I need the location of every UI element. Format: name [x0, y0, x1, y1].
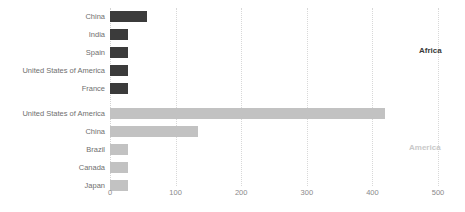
gridline-500 — [438, 8, 439, 186]
bar-africa-china[interactable] — [110, 11, 147, 22]
bar-africa-france[interactable] — [110, 83, 128, 94]
bar-america-usa[interactable] — [110, 108, 385, 119]
axis-tick-label: 400 — [366, 188, 379, 197]
category-label: China — [85, 8, 105, 26]
bar-america-brazil[interactable] — [110, 144, 128, 155]
facet-label-america: America — [409, 143, 441, 152]
bar-america-china[interactable] — [110, 126, 198, 137]
category-label: India — [89, 26, 105, 44]
bar-africa-usa[interactable] — [110, 65, 128, 76]
category-label: Brazil — [86, 141, 105, 159]
category-label: China — [85, 123, 105, 141]
facet-label-africa: Africa — [419, 46, 442, 55]
bar-america-japan[interactable] — [110, 180, 128, 191]
gridline-400 — [372, 8, 373, 186]
bar-america-canada[interactable] — [110, 162, 128, 173]
category-label: France — [82, 80, 105, 98]
category-label: United States of America — [22, 62, 105, 80]
axis-tick-label: 200 — [235, 188, 248, 197]
bar-africa-spain[interactable] — [110, 47, 128, 58]
category-label: United States of America — [22, 105, 105, 123]
plot-area: China India Spain United States of Ameri… — [110, 0, 438, 212]
axis-tick-label: 300 — [301, 188, 314, 197]
axis-tick-label: 500 — [432, 188, 445, 197]
axis-tick-label: 0 — [108, 188, 112, 197]
category-label: Spain — [86, 44, 105, 62]
gridline-300 — [307, 8, 308, 186]
gridline-100 — [176, 8, 177, 186]
category-label: Japan — [85, 177, 105, 195]
axis-tick-label: 100 — [169, 188, 182, 197]
category-label: Canada — [79, 159, 105, 177]
horizontal-bar-chart: China India Spain United States of Ameri… — [0, 0, 465, 212]
gridline-200 — [241, 8, 242, 186]
bar-africa-india[interactable] — [110, 29, 128, 40]
